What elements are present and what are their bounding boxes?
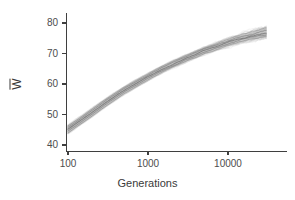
y-tick-label-70: 70 — [26, 49, 58, 59]
y-tick-label-50: 50 — [26, 110, 58, 120]
x-axis-label: Generations — [0, 178, 295, 189]
axis-tick-marks — [62, 23, 228, 155]
y-tick-label-60: 60 — [26, 79, 58, 89]
x-tick-label-10000: 10000 — [214, 159, 242, 169]
y-axis-label: W — [4, 70, 28, 98]
trajectory-lines — [68, 26, 266, 134]
y-axis-label-text: W — [10, 78, 23, 89]
x-tick-label-1000: 1000 — [137, 159, 159, 169]
y-tick-label-80: 80 — [26, 18, 58, 28]
x-tick-label-100: 100 — [60, 159, 77, 169]
chart-figure: 80 70 60 50 40 100 1000 10000 Generation… — [0, 0, 295, 200]
y-tick-label-40: 40 — [26, 140, 58, 150]
plot-canvas — [0, 0, 295, 200]
